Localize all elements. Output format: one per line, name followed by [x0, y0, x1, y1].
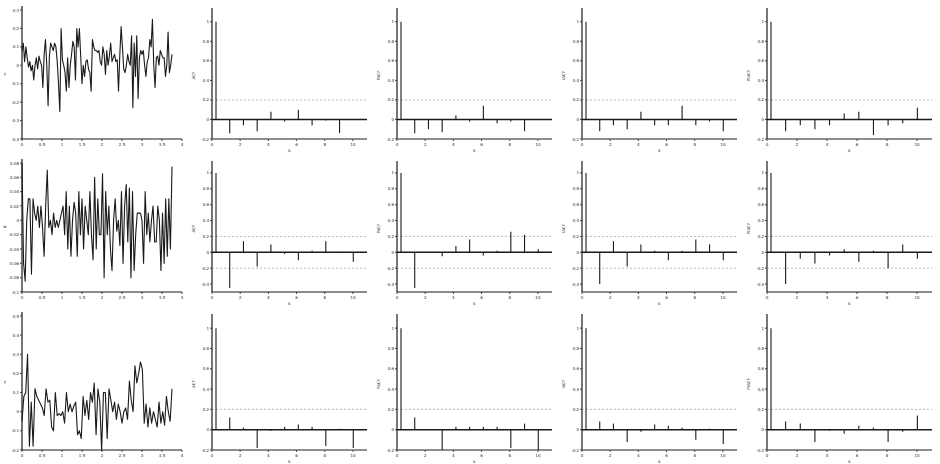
axes: 0246810-0.200.20.40.60.81PIACFk: [746, 8, 932, 153]
y-tick-label: 1: [576, 170, 579, 175]
x-tick-label: 1: [61, 295, 64, 300]
y-tick-label: 0.02: [10, 204, 19, 209]
axes: 0246810-0.200.20.40.60.81ACFk: [191, 314, 367, 464]
plot-svg: 0246810-0.4-0.200.20.40.60.81PACFk: [375, 153, 560, 306]
y-tick-label: -0.4: [201, 282, 209, 287]
y-axis-label: PACF: [376, 378, 381, 389]
y-tick-label: 0.2: [573, 97, 580, 102]
time-series-plot-r3c1: 00.511.522.533.54-0.2-0.100.10.20.30.40.…: [0, 306, 190, 464]
y-tick-label: -0.2: [571, 266, 579, 271]
correlogram-plot-r3c3: 0246810-0.200.20.40.60.81PACFk: [375, 306, 560, 464]
plot-svg: 0246810-0.200.20.40.60.81ACFk: [190, 0, 375, 153]
x-tick-label: 10: [720, 142, 726, 147]
x-tick-label: 0: [396, 453, 399, 458]
y-tick-label: 0.2: [203, 234, 210, 239]
series-line: [22, 354, 172, 450]
x-tick-label: 8: [886, 142, 889, 147]
x-tick-label: 4: [452, 295, 455, 300]
y-tick-label: 0.04: [10, 189, 19, 194]
y-tick-label: 0.4: [13, 333, 20, 338]
x-tick-label: 6: [295, 142, 298, 147]
y-tick-label: 0.6: [203, 366, 210, 371]
y-tick-label: 0: [16, 218, 19, 223]
x-tick-label: 2: [101, 295, 104, 300]
series-line: [22, 163, 172, 281]
x-tick-label: 2: [101, 142, 104, 147]
y-tick-label: -0.4: [756, 282, 764, 287]
x-tick-label: 2: [609, 295, 612, 300]
axes: 0246810-0.4-0.200.20.40.60.81PACFk: [376, 161, 552, 306]
y-axis-label: PIACF: [746, 222, 751, 234]
y-axis-label: PACF: [376, 223, 381, 234]
x-tick-label: 0: [396, 142, 399, 147]
y-tick-label: 0.4: [758, 387, 765, 392]
y-tick-label: -0.08: [9, 275, 20, 280]
y-tick-label: 0.1: [13, 390, 20, 395]
y-tick-label: 0.8: [573, 39, 580, 44]
y-tick-label: 0: [206, 117, 209, 122]
x-tick-label: 4: [181, 453, 184, 458]
x-tick-label: 1: [61, 453, 64, 458]
x-tick-label: 2: [796, 295, 799, 300]
x-tick-label: 2.5: [119, 453, 126, 458]
y-tick-label: 1: [576, 19, 579, 24]
x-tick-label: 10: [350, 295, 356, 300]
y-tick-label: 0.4: [388, 78, 395, 83]
x-tick-label: 0: [21, 453, 24, 458]
x-tick-label: 6: [856, 295, 859, 300]
axes: 0246810-0.4-0.200.20.40.60.81PIACFk: [746, 161, 932, 306]
x-tick-label: 4: [267, 142, 270, 147]
x-tick-label: 10: [914, 142, 920, 147]
x-tick-label: 8: [508, 142, 511, 147]
x-tick-label: 6: [665, 453, 668, 458]
x-tick-label: 8: [693, 295, 696, 300]
axes: 0246810-0.200.20.40.60.81ACFk: [191, 8, 367, 153]
x-tick-label: 2: [424, 142, 427, 147]
figure-grid: 00.511.522.533.54-0.4-0.3-0.2-0.100.10.2…: [0, 0, 940, 464]
y-tick-label: -0.3: [11, 118, 19, 123]
y-tick-label: -0.2: [756, 137, 764, 142]
y-tick-label: 0.8: [203, 39, 210, 44]
y-tick-label: -0.2: [11, 100, 19, 105]
x-tick-label: 3: [141, 142, 144, 147]
x-tick-label: 0: [581, 453, 584, 458]
x-tick-label: 2: [101, 453, 104, 458]
plot-svg: 0246810-0.200.20.40.60.81PIACFk: [745, 0, 940, 153]
x-tick-label: 2.5: [119, 142, 126, 147]
y-tick-label: 0.2: [758, 407, 765, 412]
x-tick-label: 0: [211, 295, 214, 300]
plot-svg: 0246810-0.4-0.200.20.40.60.81PIACFk: [745, 153, 940, 306]
y-tick-label: 0.4: [203, 78, 210, 83]
y-tick-label: 0.8: [758, 186, 765, 191]
x-tick-label: 4: [826, 453, 829, 458]
x-tick-label: 4: [637, 295, 640, 300]
axes: 0246810-0.200.20.40.60.81PIACFk: [746, 314, 932, 464]
axes: 0246810-0.200.20.40.60.81IACFk: [561, 8, 737, 153]
x-tick-label: 8: [693, 142, 696, 147]
x-tick-label: 4: [267, 295, 270, 300]
x-tick-label: 3: [141, 453, 144, 458]
x-tick-label: 3: [141, 295, 144, 300]
y-axis-label: w: [3, 224, 7, 229]
correlogram-plot-r2c4: 0246810-0.4-0.200.20.40.60.81IACFk: [560, 153, 745, 306]
x-tick-label: 0: [581, 295, 584, 300]
y-tick-label: 0.4: [388, 387, 395, 392]
y-tick-label: -0.2: [386, 266, 394, 271]
x-tick-label: 0: [766, 142, 769, 147]
x-tick-label: 8: [508, 295, 511, 300]
y-tick-label: -0.06: [9, 261, 20, 266]
x-tick-label: 0: [211, 142, 214, 147]
y-tick-label: 0: [391, 117, 394, 122]
y-tick-label: -0.1: [11, 428, 19, 433]
y-tick-label: -0.04: [9, 247, 20, 252]
y-tick-label: -0.1: [11, 290, 19, 295]
plot-svg: 0246810-0.200.20.40.60.81PIACFk: [745, 306, 940, 464]
x-tick-label: 2: [239, 142, 242, 147]
x-tick-label: 3.5: [159, 142, 166, 147]
x-tick-label: 4: [826, 295, 829, 300]
y-tick-label: 0.6: [203, 58, 210, 63]
y-tick-label: -0.2: [571, 137, 579, 142]
x-tick-label: 2: [609, 453, 612, 458]
y-tick-label: 0: [576, 117, 579, 122]
y-tick-label: 1: [761, 326, 764, 331]
